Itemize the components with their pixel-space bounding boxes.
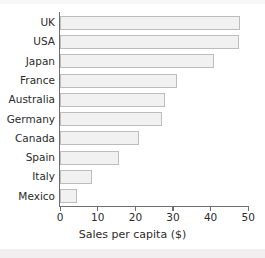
category-label-spain: Spain bbox=[0, 148, 55, 167]
bar-uk bbox=[60, 16, 240, 30]
scan-artifact-top bbox=[0, 0, 265, 4]
x-tick-label-30: 30 bbox=[161, 211, 185, 223]
bar-italy bbox=[60, 170, 92, 184]
x-tick-label-20: 20 bbox=[123, 211, 147, 223]
bar-japan bbox=[60, 54, 214, 68]
category-label-italy: Italy bbox=[0, 167, 55, 186]
bar-canada bbox=[60, 131, 139, 145]
x-axis-line bbox=[59, 206, 249, 207]
x-tick-label-40: 40 bbox=[199, 211, 223, 223]
scan-artifact-bottom bbox=[0, 249, 265, 258]
bar-row bbox=[60, 13, 240, 32]
category-label-japan: Japan bbox=[0, 52, 55, 71]
x-tick-label-50: 50 bbox=[236, 211, 260, 223]
x-tick-label-0: 0 bbox=[48, 211, 72, 223]
bar-row bbox=[60, 187, 77, 206]
x-axis-title: Sales per capita ($) bbox=[0, 228, 265, 241]
bar-row bbox=[60, 52, 214, 71]
plot-area bbox=[60, 13, 248, 206]
bar-spain bbox=[60, 151, 119, 165]
category-label-france: France bbox=[0, 71, 55, 90]
category-axis-labels: UK USA Japan France Australia Germany Ca… bbox=[0, 13, 55, 206]
bar-row bbox=[60, 32, 239, 51]
bar-usa bbox=[60, 35, 239, 49]
bar-row bbox=[60, 90, 165, 109]
bar-row bbox=[60, 148, 119, 167]
x-tick-label-10: 10 bbox=[86, 211, 110, 223]
category-label-mexico: Mexico bbox=[0, 187, 55, 206]
bar-mexico bbox=[60, 189, 77, 203]
bar-germany bbox=[60, 112, 162, 126]
category-label-uk: UK bbox=[0, 13, 55, 32]
bar-row bbox=[60, 129, 139, 148]
bar-chart-figure: UK USA Japan France Australia Germany Ca… bbox=[0, 0, 265, 258]
bar-row bbox=[60, 110, 162, 129]
bar-row bbox=[60, 167, 92, 186]
category-label-canada: Canada bbox=[0, 129, 55, 148]
bar-row bbox=[60, 71, 177, 90]
category-label-australia: Australia bbox=[0, 90, 55, 109]
y-axis-line bbox=[59, 12, 60, 207]
bar-france bbox=[60, 74, 177, 88]
category-label-germany: Germany bbox=[0, 110, 55, 129]
bar-australia bbox=[60, 93, 165, 107]
category-label-usa: USA bbox=[0, 32, 55, 51]
